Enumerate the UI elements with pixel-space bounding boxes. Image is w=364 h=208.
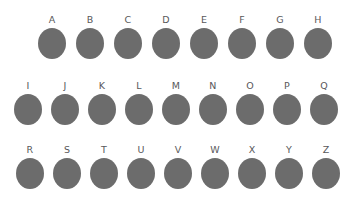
- shape-label: Y: [286, 144, 292, 155]
- ellipse-shape[interactable]: [266, 28, 294, 59]
- ellipse-shape[interactable]: [162, 94, 190, 125]
- ellipse-shape[interactable]: [238, 158, 266, 189]
- shape-label: Z: [323, 144, 330, 155]
- labeled-shape-b[interactable]: B: [76, 14, 104, 59]
- ellipse-shape[interactable]: [88, 94, 116, 125]
- ellipse-shape[interactable]: [90, 158, 118, 189]
- labeled-shape-i[interactable]: I: [14, 80, 42, 125]
- shape-label: W: [210, 144, 220, 155]
- shape-label: D: [162, 14, 170, 25]
- labeled-shape-y[interactable]: Y: [275, 144, 303, 189]
- ellipse-shape[interactable]: [310, 94, 338, 125]
- ellipse-shape[interactable]: [228, 28, 256, 59]
- ellipse-shape[interactable]: [199, 94, 227, 125]
- shape-label: U: [137, 144, 144, 155]
- labeled-shape-n[interactable]: N: [199, 80, 227, 125]
- shape-label: J: [63, 80, 66, 91]
- shape-label: A: [49, 14, 56, 25]
- labeled-shape-x[interactable]: X: [238, 144, 266, 189]
- ellipse-shape[interactable]: [275, 158, 303, 189]
- labeled-shape-j[interactable]: J: [51, 80, 79, 125]
- shape-row-2: I J K L M N O P: [14, 80, 338, 125]
- ellipse-shape[interactable]: [312, 158, 340, 189]
- labeled-shape-e[interactable]: E: [190, 14, 218, 59]
- labeled-shape-q[interactable]: Q: [310, 80, 338, 125]
- ellipse-shape[interactable]: [236, 94, 264, 125]
- shape-label: P: [284, 80, 290, 91]
- shape-label: G: [276, 14, 284, 25]
- shape-label: F: [239, 14, 245, 25]
- labeled-shape-a[interactable]: A: [38, 14, 66, 59]
- shape-row-3: R S T U V W X Y: [16, 144, 340, 189]
- shape-label: X: [249, 144, 256, 155]
- labeled-shape-f[interactable]: F: [228, 14, 256, 59]
- ellipse-shape[interactable]: [51, 94, 79, 125]
- ellipse-shape[interactable]: [14, 94, 42, 125]
- shape-label: Q: [320, 80, 328, 91]
- shape-label: I: [26, 80, 29, 91]
- ellipse-shape[interactable]: [127, 158, 155, 189]
- shape-label: R: [27, 144, 34, 155]
- shape-label: V: [175, 144, 182, 155]
- shape-label: H: [314, 14, 321, 25]
- ellipse-shape[interactable]: [201, 158, 229, 189]
- labeled-shape-g[interactable]: G: [266, 14, 294, 59]
- ellipse-shape[interactable]: [273, 94, 301, 125]
- ellipse-shape[interactable]: [16, 158, 44, 189]
- labeled-shape-v[interactable]: V: [164, 144, 192, 189]
- labeled-shape-w[interactable]: W: [201, 144, 229, 189]
- ellipse-shape[interactable]: [164, 158, 192, 189]
- shape-label: M: [172, 80, 180, 91]
- shape-label: O: [246, 80, 254, 91]
- shape-label: S: [64, 144, 70, 155]
- shape-grid-canvas: A B C D E F G H: [0, 0, 364, 208]
- labeled-shape-t[interactable]: T: [90, 144, 118, 189]
- ellipse-shape[interactable]: [114, 28, 142, 59]
- shape-label: E: [201, 14, 207, 25]
- labeled-shape-h[interactable]: H: [304, 14, 332, 59]
- shape-label: T: [101, 144, 107, 155]
- labeled-shape-l[interactable]: L: [125, 80, 153, 125]
- labeled-shape-d[interactable]: D: [152, 14, 180, 59]
- labeled-shape-p[interactable]: P: [273, 80, 301, 125]
- shape-label: L: [136, 80, 142, 91]
- labeled-shape-c[interactable]: C: [114, 14, 142, 59]
- labeled-shape-r[interactable]: R: [16, 144, 44, 189]
- shape-label: B: [87, 14, 94, 25]
- shape-label: C: [125, 14, 132, 25]
- shape-label: N: [209, 80, 216, 91]
- labeled-shape-m[interactable]: M: [162, 80, 190, 125]
- labeled-shape-z[interactable]: Z: [312, 144, 340, 189]
- ellipse-shape[interactable]: [304, 28, 332, 59]
- ellipse-shape[interactable]: [152, 28, 180, 59]
- labeled-shape-o[interactable]: O: [236, 80, 264, 125]
- ellipse-shape[interactable]: [125, 94, 153, 125]
- labeled-shape-s[interactable]: S: [53, 144, 81, 189]
- ellipse-shape[interactable]: [190, 28, 218, 59]
- ellipse-shape[interactable]: [53, 158, 81, 189]
- shape-row-1: A B C D E F G H: [38, 14, 332, 59]
- labeled-shape-u[interactable]: U: [127, 144, 155, 189]
- ellipse-shape[interactable]: [76, 28, 104, 59]
- ellipse-shape[interactable]: [38, 28, 66, 59]
- shape-label: K: [99, 80, 105, 91]
- labeled-shape-k[interactable]: K: [88, 80, 116, 125]
